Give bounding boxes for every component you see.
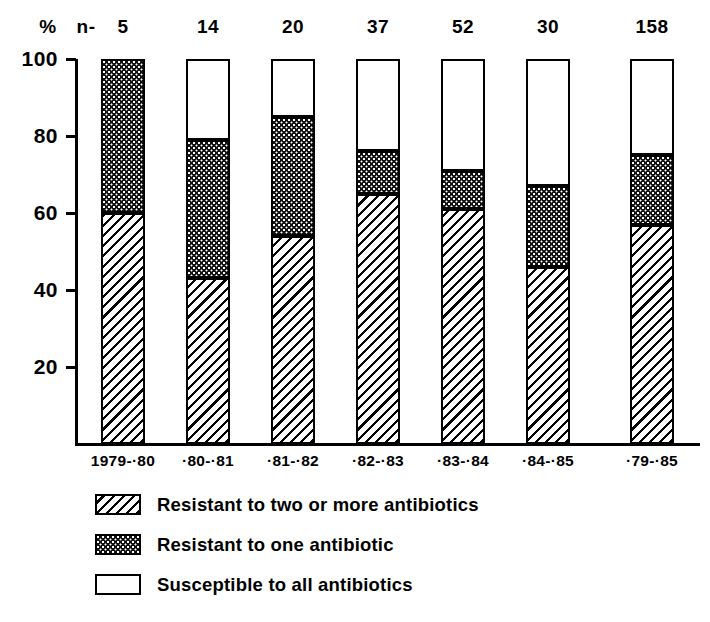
bar-segment	[271, 59, 315, 117]
bar-segment	[441, 209, 485, 444]
bar-column	[356, 59, 400, 444]
bar-segment	[441, 59, 485, 171]
legend-swatch	[95, 574, 141, 595]
y-axis-tick-mark	[66, 212, 76, 215]
x-axis-label: ·84-·85	[498, 452, 598, 470]
y-axis-tick-label: 80	[0, 125, 58, 146]
bar-segment	[630, 155, 674, 224]
legend-swatch	[95, 494, 141, 515]
y-axis-tick-label: 20	[0, 356, 58, 377]
bar-column	[441, 59, 485, 444]
legend-label: Susceptible to all antibiotics	[157, 573, 413, 596]
bar-segment	[186, 140, 230, 279]
bar-column	[271, 59, 315, 444]
bar-column	[186, 59, 230, 444]
bar-segment	[526, 186, 570, 267]
bar-segment	[271, 236, 315, 444]
bar-segment	[186, 59, 230, 140]
bar-column	[101, 59, 145, 444]
bar-segment	[356, 151, 400, 193]
bar-segment	[186, 278, 230, 444]
bar-segment	[271, 117, 315, 236]
bar-segment	[526, 267, 570, 444]
y-axis-tick-label: 60	[0, 202, 58, 223]
y-axis-tick-mark	[66, 366, 76, 369]
bar-segment	[356, 59, 400, 151]
x-axis-label: ·79-·85	[602, 452, 702, 470]
bar-segment	[101, 213, 145, 444]
legend-swatch	[95, 534, 141, 555]
bar-column	[526, 59, 570, 444]
bar-segment	[101, 59, 145, 213]
stacked-bar-chart: % n- 51420375230158 10080604020 1979-·80…	[0, 0, 710, 622]
plot-area: 10080604020 1979-·80·80-·81·81-·82·82-·8…	[0, 0, 710, 470]
bar-segment	[630, 59, 674, 155]
bar-segment	[630, 225, 674, 444]
y-axis-tick-label: 40	[0, 279, 58, 300]
y-axis-tick-mark	[66, 135, 76, 138]
bar-segment	[356, 194, 400, 444]
y-axis-tick-mark	[66, 289, 76, 292]
bar-segment	[441, 171, 485, 210]
y-axis-tick-label: 100	[0, 48, 58, 69]
bar-column	[630, 59, 674, 444]
y-axis-tick-mark	[66, 58, 76, 61]
y-axis-line	[75, 59, 78, 446]
legend-label: Resistant to two or more antibiotics	[157, 493, 479, 516]
legend-label: Resistant to one antibiotic	[157, 533, 394, 556]
bar-segment	[526, 59, 570, 186]
